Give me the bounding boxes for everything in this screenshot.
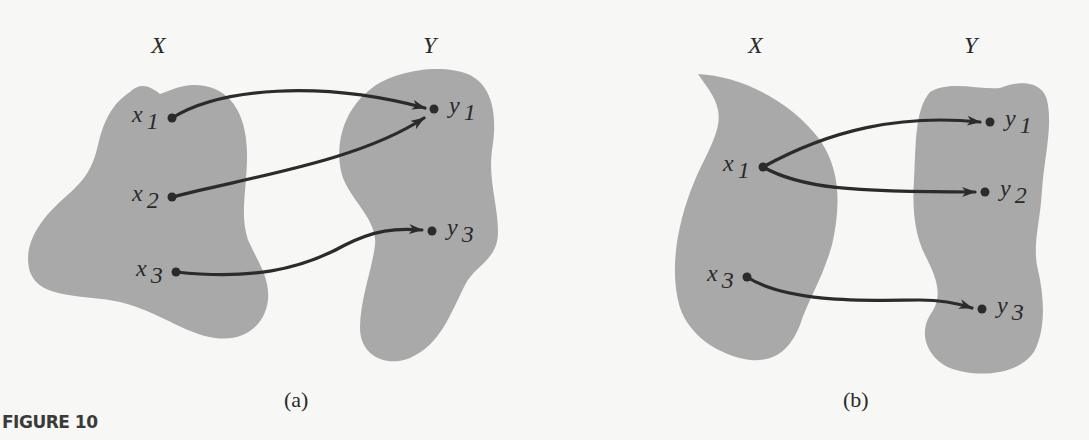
mapping-diagram-figure: X Y x1 x2 x3 y1 y3 (a) X Y xyxy=(0,0,1089,440)
caption-b: (b) xyxy=(843,387,869,412)
figure-label: FIGURE 10 xyxy=(2,412,97,432)
panel-a: X Y x1 x2 x3 y1 y3 (a) xyxy=(28,32,498,412)
set-label-x-a: X xyxy=(150,32,167,58)
point-y3-a xyxy=(428,227,437,236)
point-y2-b xyxy=(981,188,990,197)
set-label-y-b: Y xyxy=(964,32,980,58)
point-x3-a xyxy=(172,268,181,277)
point-x1-a xyxy=(168,114,177,123)
point-y1-a xyxy=(430,105,439,114)
point-y1-b xyxy=(986,118,995,127)
point-x1-b xyxy=(759,163,768,172)
domain-set-blob-b xyxy=(675,74,838,360)
set-label-y-a: Y xyxy=(423,32,439,58)
caption-a: (a) xyxy=(284,387,308,412)
set-label-x-b: X xyxy=(747,32,764,58)
point-x2-a xyxy=(168,193,177,202)
point-x3-b xyxy=(743,273,752,282)
point-y3-b xyxy=(978,305,987,314)
panel-b: X Y x1 x3 y1 y2 y3 (b) xyxy=(675,32,1049,412)
